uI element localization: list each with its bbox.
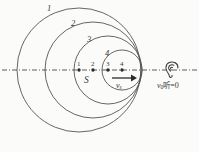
source-position-label-3: 3 bbox=[106, 61, 110, 68]
observer-annotation-suffix: =0 bbox=[170, 81, 179, 90]
observer-annotation: v0听=0 bbox=[157, 82, 179, 90]
wavefront-label-3: 3 bbox=[87, 35, 91, 44]
source-label-s: S bbox=[84, 76, 89, 86]
velocity-label: vs bbox=[116, 82, 122, 90]
wavefront-label-1: 1 bbox=[47, 4, 51, 13]
source-dot-1 bbox=[77, 68, 80, 71]
figure-canvas bbox=[0, 0, 199, 152]
source-position-label-2: 2 bbox=[91, 61, 95, 68]
doppler-wavefront-figure: 1 2 3 4 1 2 3 4 S vs v0听=0 bbox=[0, 0, 199, 152]
source-position-label-1: 1 bbox=[77, 61, 81, 68]
wavefront-label-2: 2 bbox=[71, 19, 75, 28]
source-position-label-4: 4 bbox=[120, 61, 124, 68]
wavefront-label-4: 4 bbox=[105, 49, 109, 58]
source-dot-2 bbox=[91, 68, 94, 71]
source-dot-3 bbox=[106, 68, 109, 71]
source-dot-4 bbox=[120, 68, 123, 71]
velocity-subscript: s bbox=[120, 84, 122, 90]
